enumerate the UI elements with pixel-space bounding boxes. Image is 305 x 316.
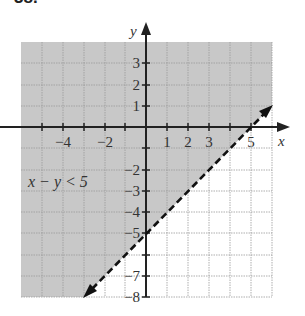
x-axis-label: x bbox=[277, 133, 285, 149]
x-tick-label: 3 bbox=[205, 134, 213, 150]
x-tick-label: 5 bbox=[247, 134, 255, 150]
y-tick-label: −2 bbox=[124, 162, 140, 178]
x-tick-label: 1 bbox=[163, 134, 171, 150]
y-axis-arrow-icon bbox=[141, 22, 151, 35]
y-tick-label: 3 bbox=[133, 55, 141, 71]
x-tick-label: −2 bbox=[97, 134, 113, 150]
y-tick-label: −4 bbox=[124, 204, 140, 220]
y-tick-label: −8 bbox=[124, 289, 140, 305]
y-tick-label: 2 bbox=[133, 77, 141, 93]
y-tick-label: −5 bbox=[124, 225, 140, 241]
x-axis-arrow-icon bbox=[277, 122, 290, 132]
y-tick-label: −3 bbox=[124, 183, 140, 199]
y-tick-label: −7 bbox=[124, 268, 140, 284]
y-axis-label: y bbox=[128, 23, 137, 39]
x-tick-label: −4 bbox=[55, 134, 71, 150]
inequality-label: x − y < 5 bbox=[27, 173, 88, 191]
inequality-graph: y x −4 −2 1 2 3 5 3 2 1 −2 −3 −4 −5 −7 −… bbox=[0, 0, 305, 316]
y-tick-label: 1 bbox=[133, 98, 141, 114]
x-tick-label: 2 bbox=[184, 134, 192, 150]
